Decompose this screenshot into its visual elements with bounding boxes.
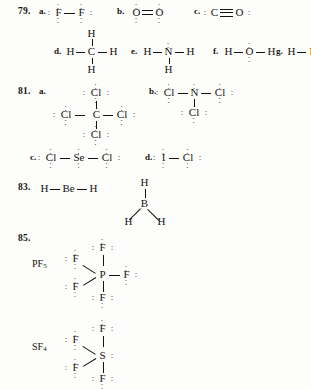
lone-pair-bottom: · · — [99, 301, 106, 309]
lone-pair-right: ·· — [199, 154, 202, 161]
structure-83-BH3: H B H H — [116, 176, 178, 222]
atom-Cl-bottom: Cl · · ·· ·· — [185, 106, 203, 119]
lone-pair-left: ·· — [92, 294, 95, 301]
bond-single — [50, 189, 60, 190]
atom-C-center: C — [90, 108, 103, 121]
lone-pair-top: · · — [118, 104, 127, 112]
lone-pair-bottom: · · — [184, 161, 193, 169]
atom-Cl-left: Cl · · · · ·· — [160, 86, 178, 99]
lone-pair-top: · · — [184, 147, 193, 155]
atom-Cl-right: Cl · · · · ·· — [98, 151, 116, 164]
bond-single — [178, 93, 188, 94]
bond-single — [82, 265, 95, 274]
atom-Cl-right: Cl · · · · ·· — [113, 108, 131, 121]
bond-single — [109, 275, 120, 276]
lone-pair-top: · · — [99, 237, 106, 245]
structure-81b-NCl3: Cl · · · · ·· N · · Cl · · · · ·· Cl · ·… — [158, 82, 248, 126]
bond-single — [201, 93, 211, 94]
bond-single — [76, 52, 85, 53]
atom-Cl-bottom: Cl · · · · ·· ·· — [87, 128, 105, 141]
answer-key-page: 79. a. F · · · · ·· F · · · · ·· b. O · … — [0, 0, 311, 389]
lone-pair-left: ·· — [65, 255, 68, 262]
lone-pair-top: · · — [55, 2, 62, 10]
problem-number-85: 85. — [18, 233, 30, 243]
lone-pair-top: · · — [92, 82, 101, 90]
atom-H-right: H — [87, 182, 100, 195]
lone-pair-left: ·· — [65, 336, 68, 343]
atom-Be-center: Be — [60, 182, 77, 195]
lone-pair-right: ·· — [118, 154, 121, 161]
lone-pair-bottom: · · — [75, 161, 84, 169]
lone-pair-left: ·· — [65, 364, 68, 371]
atom-F-axial-top: F · · ·· ·· — [96, 241, 109, 254]
problem-number-83: 83. — [18, 182, 30, 192]
structure-83-BeH2: H Be H — [38, 178, 110, 198]
part-letter-79c: c. — [194, 6, 200, 16]
lone-pair-top: · · — [72, 276, 79, 284]
lone-pair-left: ·· — [65, 283, 68, 290]
species-base: SF — [32, 341, 43, 352]
structure-81a-CCl4: Cl · · · · ·· ·· Cl · · · · ·· C Cl · · … — [53, 82, 143, 144]
bond-single — [175, 52, 184, 53]
atom-S-center: S ·· — [96, 349, 109, 362]
lone-pair-top: · · — [72, 248, 79, 256]
bond-single — [83, 358, 96, 367]
bond-single — [88, 158, 98, 159]
atom-O: O ·· — [233, 6, 246, 19]
lone-pair-right: ·· — [111, 325, 114, 332]
atom-H-top: H — [138, 176, 151, 189]
atom-H-right: H — [107, 45, 120, 58]
atom-F-axial-bottom: F · · ·· ·· — [96, 291, 109, 304]
lone-pair-left: ·· — [38, 154, 41, 161]
lone-pair-bottom: · · — [78, 16, 85, 24]
atom-H-left: H — [122, 215, 135, 228]
part-letter-79a: a. — [39, 6, 46, 16]
part-letter-79d: d. — [54, 46, 61, 56]
atom-H-right: H — [155, 215, 168, 228]
atom-F-equatorial-lower-left: F · · · · ·· — [69, 361, 82, 374]
lone-pair-bottom: · · — [246, 55, 253, 63]
lone-pair-bottom: · · — [123, 278, 130, 286]
atom-P-center: P — [96, 268, 109, 281]
part-letter-79b: b. — [117, 6, 124, 16]
species-subscript: 5 — [43, 262, 47, 270]
atom-Cl-top: Cl · · · · ·· ·· — [87, 86, 105, 99]
lone-pair-top: · · — [123, 264, 130, 272]
structure-79b-O2: O · · · · O · · · · — [128, 3, 174, 21]
lone-pair-top: · · — [165, 82, 174, 90]
lone-pair-right: ·· — [111, 375, 114, 382]
structure-79f-H2O: H O · · · · H — [222, 39, 280, 59]
atom-Cl-left: Cl · · · · ·· — [57, 108, 75, 121]
lone-pair-left: ·· — [92, 244, 95, 251]
atom-N-center: N · · — [188, 86, 201, 99]
lone-pair-top: · · — [78, 2, 85, 10]
bond-single — [103, 336, 104, 347]
lone-pair-top: · · — [191, 82, 198, 90]
structure-81c-SeCl2: Cl · · · · ·· Se · · · · Cl · · · · ·· — [40, 147, 130, 169]
lone-pair-bottom: · · — [133, 16, 140, 24]
atom-O-center: O · · · · — [243, 45, 256, 58]
bond-single — [169, 158, 179, 159]
bond-single — [64, 13, 75, 14]
lone-pair-left: ·· — [53, 111, 56, 118]
bond-single — [60, 158, 70, 159]
atom-F-axial-bottom: F · · ·· ·· — [96, 372, 109, 385]
lone-pair-top: · · — [246, 41, 253, 49]
part-letter-79e: e. — [131, 46, 137, 56]
bond-single — [103, 255, 104, 266]
bond-single — [153, 52, 162, 53]
lone-pair-top: · · — [47, 147, 56, 155]
lone-pair-bottom: · · — [72, 262, 79, 270]
structure-79g-HF: H F · · · · — [285, 39, 311, 59]
structure-85-SF4: F · · ·· ·· F · · · · ·· S ·· F · · · · … — [62, 318, 142, 389]
lone-pair-left: ·· — [204, 9, 207, 16]
species-subscript: 4 — [43, 345, 47, 353]
bond-double — [142, 10, 153, 17]
lone-pair-right: ·· — [205, 109, 208, 116]
atom-N-center: N · · — [162, 45, 175, 58]
lone-pair-top: · · — [92, 124, 101, 132]
bond-single — [256, 52, 265, 53]
structure-79d-CH4: H H C H H — [64, 27, 124, 63]
atom-H-right: H — [184, 45, 197, 58]
bond-triple — [220, 9, 233, 18]
